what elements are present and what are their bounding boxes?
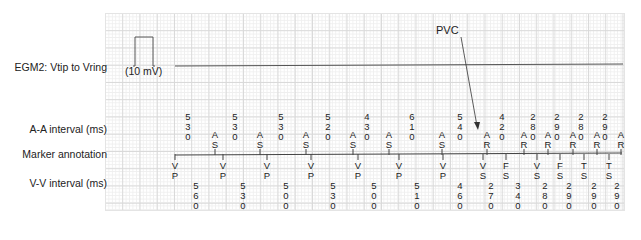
vv-interval-value: 2 7 0 [486, 181, 496, 211]
ventricular-marker: T S [604, 161, 614, 181]
aa-interval-value: 5 3 0 [230, 112, 240, 142]
aa-interval-value: 5 3 0 [276, 112, 286, 142]
aa-interval-value: 5 3 0 [183, 112, 193, 142]
vv-interval-value: 5 6 0 [191, 181, 201, 211]
atrial-marker: A R [519, 130, 529, 150]
ventricular-marker: V P [306, 161, 316, 181]
atrial-marker: A R [616, 130, 626, 150]
vv-interval-value: 2 9 0 [612, 181, 622, 211]
calibration-pulse [133, 37, 155, 66]
vv-interval-value: 2 8 0 [540, 181, 550, 211]
atrial-marker: A S [348, 130, 358, 150]
vv-interval-value: 3 4 0 [513, 181, 523, 211]
egm-trace-line [175, 64, 623, 66]
ventricular-marker: V S [478, 161, 488, 181]
ventricular-marker: V P [170, 161, 180, 181]
ventricular-marker: V P [438, 161, 448, 181]
aa-interval-value: 5 2 0 [323, 112, 333, 142]
atrial-marker: A S [437, 130, 447, 150]
ventricular-marker: V P [353, 161, 363, 181]
aa-interval-value: 4 3 0 [362, 112, 372, 142]
ventricular-marker: F S [555, 161, 565, 181]
atrial-marker: A S [384, 130, 394, 150]
vv-interval-value: 2 9 0 [589, 181, 599, 211]
ventricular-marker: V P [394, 161, 404, 181]
ventricular-marker: T S [579, 161, 589, 181]
vv-interval-value: 5 1 0 [412, 181, 422, 211]
aa-interval-value: 5 4 0 [455, 112, 465, 142]
aa-interval-value: 2 8 0 [528, 112, 538, 142]
vv-interval-value: 4 6 0 [455, 181, 465, 211]
vv-interval-value: 5 3 0 [328, 181, 338, 211]
ventricular-marker: V S [532, 161, 542, 181]
vv-interval-value: 5 0 0 [369, 181, 379, 211]
aa-interval-value: 2 9 0 [552, 112, 562, 142]
vv-interval-value: 5 3 0 [238, 181, 248, 211]
atrial-marker: A R [482, 130, 492, 150]
aa-interval-value: 6 1 0 [407, 112, 417, 142]
ventricular-marker: V P [262, 161, 272, 181]
atrial-marker: A R [543, 130, 553, 150]
atrial-marker: A R [592, 130, 602, 150]
ventricular-marker: V P [218, 161, 228, 181]
vv-interval-value: 2 9 0 [564, 181, 574, 211]
atrial-marker: A R [568, 130, 578, 150]
atrial-marker: A S [301, 130, 311, 150]
aa-interval-value: 4 2 0 [497, 112, 507, 142]
atrial-marker: A S [255, 130, 265, 150]
ventricular-marker: F S [501, 161, 511, 181]
atrial-marker: A S [210, 130, 220, 150]
vv-interval-value: 5 0 0 [281, 181, 291, 211]
pvc-arrowhead [474, 122, 480, 130]
